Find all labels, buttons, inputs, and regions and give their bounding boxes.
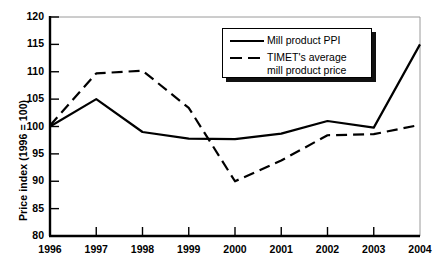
x-tick-label: 1996: [29, 243, 71, 255]
x-tick-label: 2000: [214, 243, 256, 255]
y-tick-label: 100: [18, 120, 44, 132]
legend-entry-timet-average-mill-product-price: TIMET's average mill product price: [229, 51, 347, 76]
line-chart-canvas: [0, 0, 441, 267]
y-tick-label: 85: [18, 202, 44, 214]
chart-legend: Mill product PPI TIMET's average mill pr…: [222, 28, 372, 78]
x-tick-label: 2004: [399, 243, 441, 255]
x-tick-label: 2002: [307, 243, 349, 255]
y-tick-label: 120: [18, 10, 44, 22]
x-tick-label: 1998: [122, 243, 164, 255]
x-axis-ticks: [96, 227, 374, 236]
x-tick-label: 2001: [260, 243, 302, 255]
legend-label-0: Mill product PPI: [265, 34, 341, 47]
legend-swatch-solid-line: [229, 35, 265, 47]
y-tick-label: 115: [18, 37, 44, 49]
y-tick-label: 95: [18, 147, 44, 159]
x-tick-label: 1997: [75, 243, 117, 255]
chart-figure: Price index (1996 = 100) 808590951001051…: [0, 0, 441, 267]
legend-label-1: TIMET's average mill product price: [265, 51, 347, 76]
legend-entry-mill-product-ppi: Mill product PPI: [229, 34, 341, 47]
y-tick-label: 80: [18, 229, 44, 241]
legend-swatch-dashed-line: [229, 52, 265, 64]
y-tick-label: 110: [18, 65, 44, 77]
x-tick-label: 2003: [353, 243, 395, 255]
y-axis-ticks: [50, 17, 59, 209]
y-tick-label: 90: [18, 174, 44, 186]
x-tick-label: 1999: [168, 243, 210, 255]
y-tick-label: 105: [18, 92, 44, 104]
